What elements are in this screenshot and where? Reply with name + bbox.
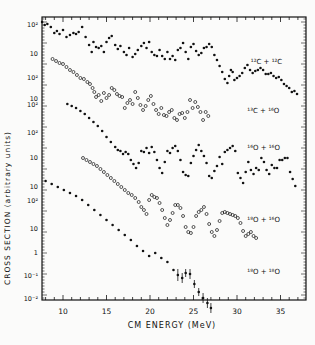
x-axis-title: CM ENERGY (MeV): [128, 321, 216, 330]
series-label: ¹⁸O + ¹⁸O: [247, 268, 280, 276]
y-tick-label: 10: [30, 183, 38, 191]
series-points: [44, 180, 212, 313]
y-tick-label: 10²: [27, 101, 38, 109]
y-tick-label: 1: [34, 249, 38, 257]
y-tick-label: 10⁻¹: [24, 272, 39, 280]
series-label: ¹⁸O + ¹⁶O: [247, 216, 280, 224]
x-tick-label: 15: [102, 307, 112, 316]
y-tick-label: 10²: [27, 129, 38, 137]
x-tick-labels: 101520253035: [58, 307, 285, 316]
x-tick-label: 25: [189, 307, 199, 316]
cross-section-chart: 101520253035 10²1010²1010²10²101010²1011…: [0, 0, 315, 345]
y-tick-label: 10²: [27, 74, 38, 82]
y-axis-title: CROSS SECTION (arbitrary units): [3, 131, 12, 285]
x-tick-label: 30: [232, 307, 242, 316]
y-tick-label: 10: [30, 225, 38, 233]
series-points: [51, 58, 210, 122]
series-points: [82, 157, 258, 240]
series-label: ¹³C + ¹⁶O: [247, 107, 279, 115]
x-tick-label: 10: [58, 307, 68, 316]
y-tick-label: 10⁻²: [24, 295, 39, 303]
x-tick-label: 20: [145, 307, 155, 316]
y-tick-label: 10²: [27, 197, 38, 205]
y-tick-label: 10: [30, 154, 38, 162]
y-tick-labels: 10²1010²1010²10²101010²10110⁻¹10⁻²: [24, 21, 39, 303]
series-label: ¹²C + ¹²C: [251, 58, 282, 66]
x-tick-label: 35: [276, 307, 286, 316]
y-tick-label: 10²: [27, 21, 38, 29]
series-label: ¹⁶O + ¹⁶O: [247, 144, 280, 152]
y-tick-label: 10: [30, 50, 38, 58]
